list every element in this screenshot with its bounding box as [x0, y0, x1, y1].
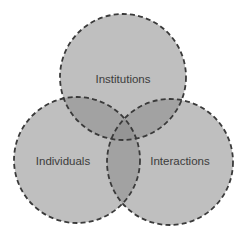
venn-diagram: Institutions Individuals Interactions: [0, 0, 245, 246]
individuals-label: Individuals: [36, 155, 91, 167]
interactions-label: Interactions: [150, 155, 210, 167]
circle-fills: [14, 14, 233, 225]
institutions-label: Institutions: [96, 73, 151, 85]
